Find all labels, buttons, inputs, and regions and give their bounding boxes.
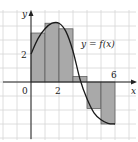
x-tick-label-2: 2 bbox=[55, 86, 61, 96]
x-axis-label: x bbox=[131, 86, 136, 96]
riemann-rectangle bbox=[101, 82, 115, 124]
y-tick-label-2: 2 bbox=[21, 50, 27, 60]
y-axis-label: y bbox=[21, 9, 28, 19]
x-axis-arrow-icon bbox=[131, 80, 137, 85]
riemann-rectangle bbox=[45, 23, 59, 82]
x-tick-label-6: 6 bbox=[111, 70, 117, 80]
riemann-sum-diagram: y x 0 2 6 2 y = f(x) bbox=[0, 0, 138, 142]
curve-label: y = f(x) bbox=[80, 39, 115, 49]
riemann-rectangle bbox=[59, 29, 73, 82]
y-axis-arrow-icon bbox=[29, 10, 34, 16]
origin-label: 0 bbox=[22, 86, 28, 96]
riemann-rectangle bbox=[31, 33, 45, 82]
